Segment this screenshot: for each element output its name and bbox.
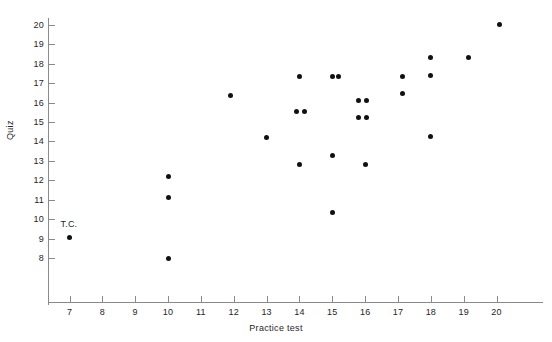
data-point <box>428 73 433 78</box>
y-tick-label-wrap: 9 <box>0 235 44 244</box>
data-point <box>356 98 361 103</box>
data-point <box>302 109 307 114</box>
x-tick-label-19: 19 <box>449 308 479 317</box>
x-axis-line <box>48 302 543 303</box>
x-tick-14 <box>299 296 300 302</box>
data-point <box>330 153 335 158</box>
x-tick-label-12: 12 <box>219 308 249 317</box>
y-tick-label-wrap: 11 <box>0 196 44 205</box>
data-point <box>400 91 405 96</box>
x-tick-label-17: 17 <box>383 308 413 317</box>
y-tick-label-8: 8 <box>8 254 44 263</box>
data-point <box>297 74 302 79</box>
y-tick-13 <box>49 161 55 162</box>
data-point <box>294 109 299 114</box>
x-axis-title: Practice test <box>0 324 552 333</box>
y-tick-label-wrap: 18 <box>0 60 44 69</box>
data-point <box>356 115 361 120</box>
x-tick-13 <box>267 296 268 302</box>
x-tick-label-16: 16 <box>350 308 380 317</box>
data-point <box>428 55 433 60</box>
x-tick-17 <box>398 296 399 302</box>
x-tick-10 <box>168 296 169 302</box>
x-tick-8 <box>102 296 103 302</box>
x-tick-label-15: 15 <box>317 308 347 317</box>
data-point <box>497 22 502 27</box>
data-point <box>330 210 335 215</box>
y-tick-label-18: 18 <box>8 60 44 69</box>
y-tick-label-13: 13 <box>8 157 44 166</box>
y-tick-18 <box>49 64 55 65</box>
x-tick-label-10: 10 <box>153 308 183 317</box>
x-tick-12 <box>234 296 235 302</box>
y-tick-label-16: 16 <box>8 99 44 108</box>
data-point <box>363 162 368 167</box>
y-tick-label-wrap: 20 <box>0 21 44 30</box>
data-point <box>264 135 269 140</box>
y-tick-14 <box>49 141 55 142</box>
y-tick-label-wrap: 17 <box>0 79 44 88</box>
x-tick-label-7: 7 <box>55 308 85 317</box>
data-point <box>336 74 341 79</box>
data-point <box>67 235 72 240</box>
data-point <box>364 98 369 103</box>
data-point <box>166 195 171 200</box>
data-point <box>330 74 335 79</box>
data-point <box>400 74 405 79</box>
data-point <box>228 93 233 98</box>
scatterplot-chart: 891011121314151617181920 789101112131415… <box>0 0 552 342</box>
y-tick-20 <box>49 25 55 26</box>
y-tick-label-wrap: 8 <box>0 254 44 263</box>
y-tick-label-wrap: 13 <box>0 157 44 166</box>
y-tick-label-17: 17 <box>8 79 44 88</box>
x-tick-label-18: 18 <box>416 308 446 317</box>
y-tick-label-20: 20 <box>8 21 44 30</box>
x-tick-19 <box>464 296 465 302</box>
data-point <box>466 55 471 60</box>
y-tick-10 <box>49 219 55 220</box>
y-tick-11 <box>49 200 55 201</box>
y-tick-label-wrap: 12 <box>0 176 44 185</box>
data-point <box>364 115 369 120</box>
x-tick-16 <box>365 296 366 302</box>
x-tick-label-20: 20 <box>482 308 512 317</box>
y-tick-19 <box>49 44 55 45</box>
x-tick-20 <box>497 296 498 302</box>
data-point <box>428 134 433 139</box>
y-tick-label-9: 9 <box>8 235 44 244</box>
x-tick-7 <box>70 296 71 302</box>
y-tick-label-19: 19 <box>8 40 44 49</box>
data-point <box>166 174 171 179</box>
y-tick-label-11: 11 <box>8 196 44 205</box>
data-point <box>297 162 302 167</box>
x-tick-label-14: 14 <box>284 308 314 317</box>
y-tick-12 <box>49 180 55 181</box>
y-tick-8 <box>49 258 55 259</box>
y-tick-9 <box>49 239 55 240</box>
y-tick-17 <box>49 83 55 84</box>
point-annotation-label: T.C. <box>61 220 78 229</box>
y-tick-label-12: 12 <box>8 176 44 185</box>
y-tick-label-wrap: 10 <box>0 215 44 224</box>
y-tick-16 <box>49 103 55 104</box>
y-axis-title: Quiz <box>6 120 15 140</box>
x-tick-18 <box>431 296 432 302</box>
y-tick-15 <box>49 122 55 123</box>
x-tick-9 <box>135 296 136 302</box>
x-tick-15 <box>332 296 333 302</box>
y-tick-label-10: 10 <box>8 215 44 224</box>
y-tick-label-wrap: 19 <box>0 40 44 49</box>
data-point <box>166 256 171 261</box>
x-tick-label-11: 11 <box>186 308 216 317</box>
y-tick-label-wrap: 16 <box>0 99 44 108</box>
x-tick-label-8: 8 <box>87 308 117 317</box>
x-tick-label-9: 9 <box>120 308 150 317</box>
x-tick-11 <box>201 296 202 302</box>
x-tick-label-13: 13 <box>252 308 282 317</box>
